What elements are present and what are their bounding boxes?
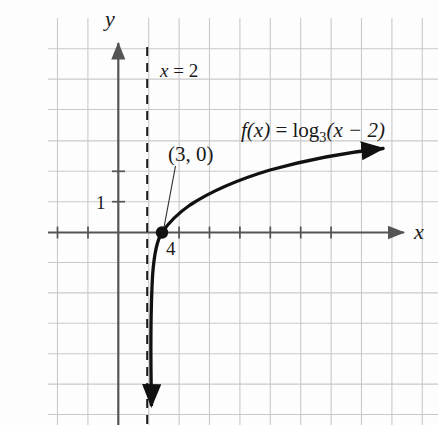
grid-lines [48,18,438,425]
marked-point-3-0 [156,226,168,238]
asymptote-equals: = [168,60,188,81]
graph-canvas [0,0,438,425]
logarithm-graph-figure: y x x = 2 (3, 0) 1 4 f(x) = log3(x − 2) [0,0,438,425]
x-tick-label-4: 4 [166,239,176,258]
function-body: (x − 2) [326,118,384,142]
log-curve [151,149,383,405]
asymptote-label: x = 2 [160,61,198,80]
asymptote-value: 2 [189,60,199,81]
function-argument: (x) [247,118,270,142]
y-tick-label-1: 1 [96,193,106,212]
axis-lines [48,43,404,425]
point-coordinates-label: (3, 0) [168,144,214,165]
function-equation-label: f(x) = log3(x − 2) [241,120,385,144]
y-axis-label: y [105,8,115,30]
function-equals-log: = log [270,118,319,142]
x-axis-label: x [414,221,424,243]
